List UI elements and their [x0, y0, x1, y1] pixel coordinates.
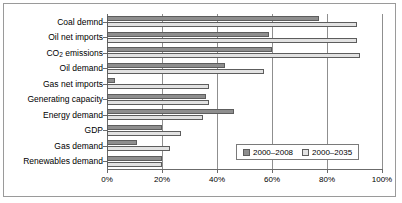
category-tick: [103, 22, 107, 23]
bar: [107, 78, 115, 83]
legend-label: 2000–2008: [253, 148, 293, 157]
bar: [107, 146, 170, 151]
x-tick-label: 80%: [307, 175, 347, 184]
x-tick: [107, 169, 108, 173]
category-axis-labels: Coal demndOil net importsCO2 emissionsOi…: [4, 14, 103, 169]
x-tick: [272, 169, 273, 173]
bar: [107, 100, 209, 105]
bar: [107, 162, 162, 167]
category-tick: [103, 115, 107, 116]
x-tick-label: 40%: [197, 175, 237, 184]
legend-label: 2000–2035: [312, 148, 352, 157]
bar: [107, 109, 234, 114]
category-tick: [103, 161, 107, 162]
bar: [107, 53, 360, 58]
legend-item: 2000–2035: [302, 148, 352, 157]
bar: [107, 69, 264, 74]
bar: [107, 38, 357, 43]
bar: [107, 32, 269, 37]
bar: [107, 115, 203, 120]
gridline-100%: [382, 14, 383, 169]
x-tick-label: 20%: [142, 175, 182, 184]
x-tick-label: 60%: [252, 175, 292, 184]
category-tick: [103, 130, 107, 131]
category-label: Oil demand: [60, 63, 103, 73]
bar: [107, 16, 319, 21]
chart-frame: Coal demndOil net importsCO2 emissionsOi…: [3, 3, 396, 197]
category-label: CO2 emissions: [46, 48, 103, 59]
category-label: Gas demand: [54, 141, 103, 151]
bar: [107, 140, 137, 145]
bar: [107, 131, 181, 136]
category-label: Coal demnd: [57, 17, 103, 27]
category-label: Renewables demand: [23, 156, 103, 166]
category-label: Generating capacity: [27, 94, 103, 104]
x-tick: [327, 169, 328, 173]
x-tick-label: 0%: [87, 175, 127, 184]
bar: [107, 125, 162, 130]
category-label: Gas net imports: [43, 79, 103, 89]
category-label: Energy demand: [43, 110, 103, 120]
bar: [107, 47, 272, 52]
x-axis-line: [107, 169, 383, 170]
bar: [107, 84, 209, 89]
category-label: GDP: [85, 125, 103, 135]
legend-swatch-icon: [302, 149, 309, 156]
bar: [107, 22, 357, 27]
x-tick: [382, 169, 383, 173]
category-tick: [103, 146, 107, 147]
legend-item: 2000–2008: [243, 148, 293, 157]
legend-swatch-icon: [243, 149, 250, 156]
x-tick: [217, 169, 218, 173]
category-tick: [103, 53, 107, 54]
category-label: Oil net imports: [48, 32, 103, 42]
x-tick-label: 100%: [362, 175, 402, 184]
category-tick: [103, 99, 107, 100]
bar: [107, 94, 206, 99]
category-tick: [103, 37, 107, 38]
bar: [107, 63, 225, 68]
x-tick: [162, 169, 163, 173]
chart-legend: 2000–20082000–2035: [236, 144, 359, 160]
bar: [107, 156, 162, 161]
category-tick: [103, 84, 107, 85]
category-tick: [103, 68, 107, 69]
